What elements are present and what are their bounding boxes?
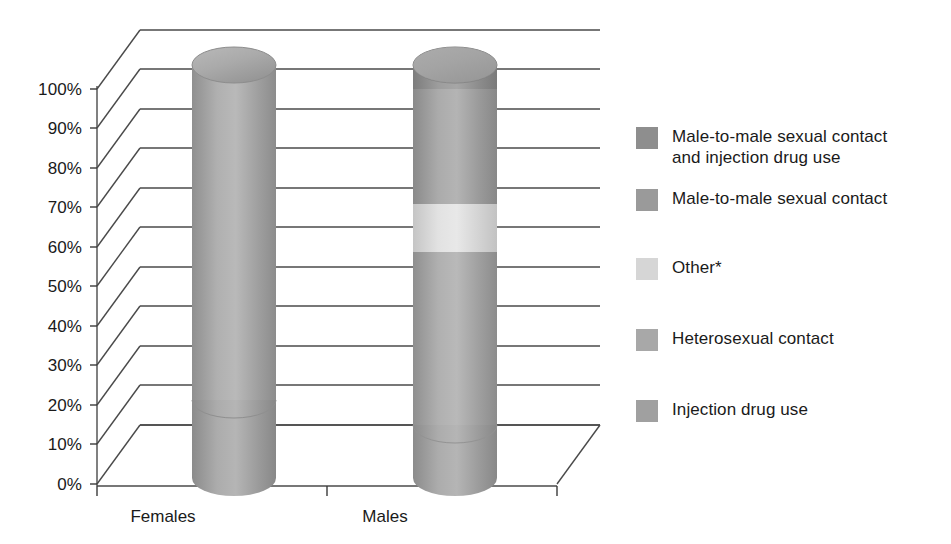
segment-males-other — [413, 204, 497, 252]
cap-females — [192, 47, 276, 83]
chart-plot-area — [0, 0, 951, 544]
y-tick-90: 90% — [12, 120, 82, 137]
legend-label-male-to-male-and-injection-drug-use: Male-to-male sexual contact and injectio… — [672, 126, 887, 168]
x-category-females: Females — [83, 508, 243, 525]
legend-swatch-other — [636, 258, 658, 280]
legend-item-heterosexual-contact[interactable]: Heterosexual contact — [636, 328, 834, 351]
y-axis-ticks — [90, 89, 97, 484]
segment-females-heterosexual — [192, 65, 276, 418]
chart-container: 100% 90% 80% 70% 60% 50% 40% 30% 20% 10%… — [0, 0, 951, 544]
y-tick-100: 100% — [12, 81, 82, 98]
legend-swatch-injection-drug-use — [636, 400, 658, 422]
y-tick-0: 0% — [12, 476, 82, 493]
legend-item-other[interactable]: Other* — [636, 257, 722, 280]
legend-label-injection-drug-use: Injection drug use — [672, 399, 808, 420]
legend-item-male-to-male-and-injection-drug-use[interactable]: Male-to-male sexual contact and injectio… — [636, 126, 887, 168]
legend-swatch-male-to-male-and-injection-drug-use — [636, 127, 658, 149]
legend-label-heterosexual-contact: Heterosexual contact — [672, 328, 834, 349]
y-tick-50: 50% — [12, 278, 82, 295]
legend-item-male-to-male[interactable]: Male-to-male sexual contact — [636, 188, 887, 211]
legend-swatch-male-to-male — [636, 189, 658, 211]
y-tick-80: 80% — [12, 160, 82, 177]
y-tick-60: 60% — [12, 239, 82, 256]
legend-item-injection-drug-use[interactable]: Injection drug use — [636, 399, 808, 422]
y-tick-20: 20% — [12, 397, 82, 414]
y-tick-70: 70% — [12, 199, 82, 216]
chart-frame — [97, 30, 600, 486]
y-tick-10: 10% — [12, 436, 82, 453]
legend-swatch-heterosexual-contact — [636, 329, 658, 351]
bar-males[interactable] — [413, 47, 497, 496]
segment-males-heterosexual — [413, 252, 497, 425]
y-tick-30: 30% — [12, 357, 82, 374]
segment-males-injection-drug-use — [413, 425, 497, 496]
segment-males-male-to-male — [413, 89, 497, 204]
legend-label-male-to-male: Male-to-male sexual contact — [672, 188, 887, 209]
y-tick-40: 40% — [12, 318, 82, 335]
bar-females[interactable] — [192, 47, 276, 496]
legend-label-other: Other* — [672, 257, 722, 278]
x-category-males: Males — [305, 508, 465, 525]
cap-males-highlight — [413, 47, 497, 83]
segment-females-injection-drug-use — [192, 400, 276, 496]
